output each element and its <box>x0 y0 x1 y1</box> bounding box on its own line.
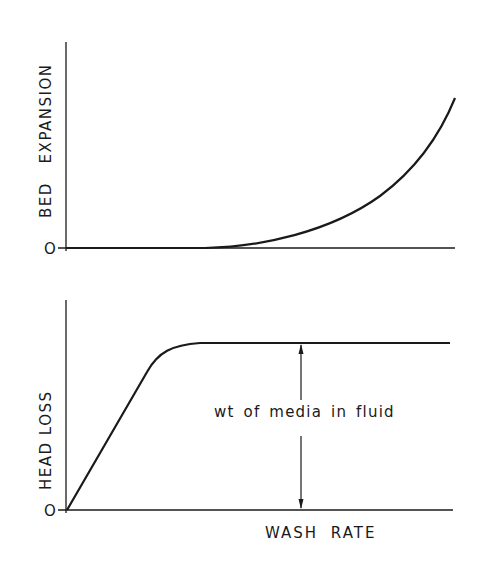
media-weight-dimension-arrow <box>299 344 304 509</box>
media-weight-annotation: wt of media in fluid <box>214 403 395 421</box>
arrow-up-icon <box>299 344 304 354</box>
head-loss-curve <box>67 343 450 510</box>
arrow-down-icon <box>299 499 304 509</box>
top-origin-label: O <box>44 240 56 258</box>
bottom-origin-label: O <box>44 502 56 520</box>
bottom-y-axis-label: HEAD LOSS <box>37 390 55 490</box>
bottom-chart: O HEAD LOSS wt of media in fluid WASH RA… <box>37 300 453 542</box>
top-y-axis-label: BED EXPANSION <box>37 64 55 218</box>
bed-expansion-curve <box>66 98 455 248</box>
top-chart: O BED EXPANSION <box>37 42 455 258</box>
diagram-canvas: O BED EXPANSION O HEAD LOSS wt of media … <box>0 0 482 568</box>
x-axis-label: WASH RATE <box>265 524 376 542</box>
